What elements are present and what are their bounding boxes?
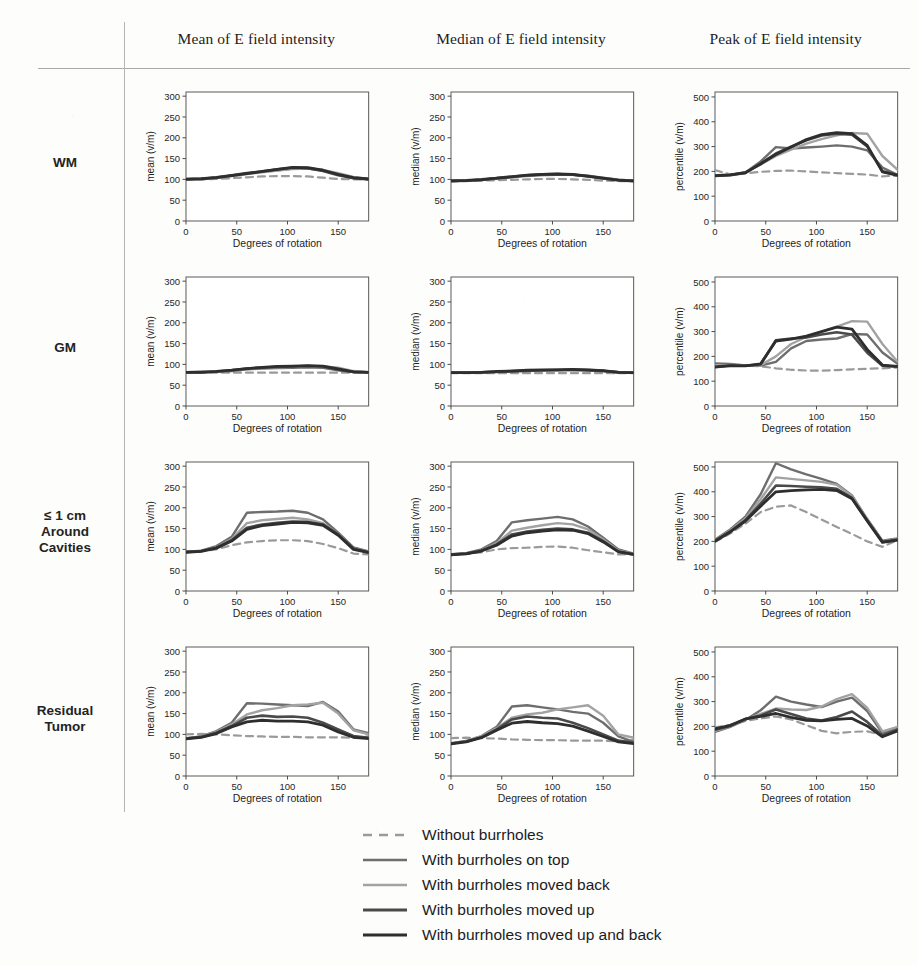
- plot-gm-median: 050100150200250300050100150Degrees of ro…: [389, 263, 654, 448]
- x-tick-label: 0: [448, 411, 453, 422]
- plot-row-cavities: 050100150200250300050100150Degrees of ro…: [124, 448, 918, 633]
- x-tick-label: 100: [280, 411, 296, 422]
- y-tick-label: 200: [429, 502, 445, 513]
- x-axis-label: Degrees of rotation: [233, 608, 322, 619]
- x-axis-label: Degrees of rotation: [233, 793, 322, 804]
- y-tick-label: 250: [429, 667, 445, 678]
- y-tick-label: 50: [169, 380, 180, 391]
- x-tick-label: 0: [183, 411, 188, 422]
- plot-frame: [451, 92, 634, 221]
- y-axis-label: median (v/m): [410, 497, 421, 555]
- plot-cell-cavities-median: 050100150200250300050100150Degrees of ro…: [389, 448, 654, 633]
- y-tick-label: 300: [429, 276, 445, 287]
- legend-item: With burrholes on top: [362, 847, 782, 872]
- legend-line-swatch: [362, 854, 408, 866]
- x-axis-label: Degrees of rotation: [497, 238, 586, 249]
- y-tick-label: 500: [694, 647, 710, 658]
- header-divider-rule: [38, 68, 910, 69]
- y-tick-label: 200: [164, 502, 180, 513]
- y-tick-label: 300: [429, 461, 445, 472]
- x-tick-label: 50: [496, 596, 507, 607]
- y-tick-label: 250: [164, 482, 180, 493]
- y-tick-label: 500: [694, 277, 710, 288]
- y-tick-label: 0: [704, 401, 709, 412]
- y-tick-label: 300: [694, 511, 710, 522]
- y-tick-label: 400: [694, 116, 710, 127]
- y-tick-label: 100: [694, 376, 710, 387]
- x-tick-label: 100: [809, 411, 825, 422]
- y-tick-label: 0: [704, 771, 709, 782]
- x-tick-label: 100: [280, 781, 296, 792]
- y-tick-label: 100: [429, 729, 445, 740]
- y-tick-label: 100: [694, 561, 710, 572]
- y-tick-label: 0: [439, 216, 444, 227]
- y-tick-label: 150: [429, 153, 445, 164]
- legend-label: With burrholes moved up and back: [422, 926, 662, 944]
- legend-item: Without burrholes: [362, 822, 782, 847]
- row-label-gm: GM: [10, 340, 120, 356]
- plot-frame: [186, 462, 369, 591]
- plot-cell-cavities-peak: 0100200300400500050100150Degrees of rota…: [653, 448, 918, 633]
- legend-line-swatch: [362, 929, 408, 941]
- x-axis-label: Degrees of rotation: [762, 608, 851, 619]
- y-tick-label: 150: [429, 523, 445, 534]
- y-tick-label: 300: [694, 141, 710, 152]
- y-tick-label: 100: [164, 544, 180, 555]
- y-axis-label: percentile (v/m): [674, 307, 685, 376]
- legend-line-swatch: [362, 904, 408, 916]
- y-tick-label: 0: [175, 401, 180, 412]
- y-axis-label: mean (v/m): [145, 501, 156, 551]
- x-tick-label: 150: [330, 781, 346, 792]
- x-tick-label: 150: [330, 596, 346, 607]
- y-tick-label: 0: [175, 771, 180, 782]
- y-axis-label: mean (v/m): [145, 686, 156, 736]
- row-label-tumor: ResidualTumor: [10, 703, 120, 735]
- plot-tumor-mean: 050100150200250300050100150Degrees of ro…: [124, 633, 389, 818]
- column-header-mean: Mean of E field intensity: [124, 30, 389, 64]
- y-tick-label: 100: [694, 746, 710, 757]
- y-tick-label: 250: [429, 297, 445, 308]
- x-tick-label: 0: [448, 781, 453, 792]
- plot-grid: 050100150200250300050100150Degrees of ro…: [124, 78, 918, 808]
- plot-gm-peak: 0100200300400500050100150Degrees of rota…: [653, 263, 918, 448]
- x-axis-label: Degrees of rotation: [497, 608, 586, 619]
- x-tick-label: 100: [809, 596, 825, 607]
- plot-cell-gm-peak: 0100200300400500050100150Degrees of rota…: [653, 263, 918, 448]
- x-axis-label: Degrees of rotation: [762, 238, 851, 249]
- x-tick-label: 100: [544, 226, 560, 237]
- x-axis-label: Degrees of rotation: [497, 793, 586, 804]
- legend-item: With burrholes moved back: [362, 872, 782, 897]
- x-axis-label: Degrees of rotation: [233, 423, 322, 434]
- column-header-median: Median of E field intensity: [389, 30, 654, 64]
- y-tick-label: 150: [164, 338, 180, 349]
- y-axis-label: median (v/m): [410, 127, 421, 185]
- y-tick-label: 300: [164, 91, 180, 102]
- y-axis-label: median (v/m): [410, 312, 421, 370]
- x-tick-label: 100: [544, 411, 560, 422]
- y-tick-label: 200: [694, 166, 710, 177]
- y-tick-label: 0: [704, 216, 709, 227]
- y-tick-label: 0: [704, 586, 709, 597]
- plot-frame: [186, 92, 369, 221]
- legend-label: With burrholes on top: [422, 851, 569, 869]
- x-axis-label: Degrees of rotation: [497, 423, 586, 434]
- y-tick-label: 200: [694, 721, 710, 732]
- y-tick-label: 150: [429, 338, 445, 349]
- y-tick-label: 500: [694, 462, 710, 473]
- y-axis-label: mean (v/m): [145, 316, 156, 366]
- y-tick-label: 300: [164, 276, 180, 287]
- x-tick-label: 50: [496, 226, 507, 237]
- x-axis-label: Degrees of rotation: [233, 238, 322, 249]
- x-tick-label: 50: [496, 411, 507, 422]
- y-tick-label: 300: [429, 91, 445, 102]
- y-tick-label: 400: [694, 301, 710, 312]
- y-tick-label: 200: [164, 687, 180, 698]
- x-tick-label: 50: [231, 596, 242, 607]
- y-tick-label: 400: [694, 486, 710, 497]
- y-tick-label: 300: [694, 326, 710, 337]
- x-tick-label: 50: [231, 411, 242, 422]
- y-tick-label: 200: [694, 536, 710, 547]
- y-tick-label: 250: [164, 112, 180, 123]
- y-axis-label: median (v/m): [410, 682, 421, 740]
- y-tick-label: 0: [439, 771, 444, 782]
